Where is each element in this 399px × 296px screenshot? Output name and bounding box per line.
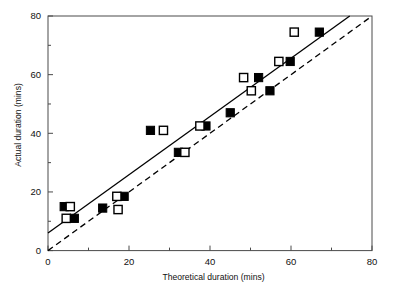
data-point-open [240,73,248,81]
data-point-open [181,148,189,156]
x-tick-label: 60 [286,256,297,267]
data-point-filled [286,57,294,65]
data-point-open [247,87,255,95]
data-point-open [114,205,122,213]
y-tick-label: 40 [30,128,41,139]
data-point-filled [146,126,154,134]
x-axis-label: Theoretical duration (mins) [0,272,399,282]
x-tick-label: 0 [45,256,50,267]
x-tick-label: 20 [124,256,135,267]
data-point-filled [99,204,107,212]
scatter-plot-figure: Actual duration (mins) Theoretical durat… [0,0,399,296]
identity-line [48,16,372,251]
data-point-filled [70,214,78,222]
data-point-filled [226,109,234,117]
data-point-open [196,122,204,130]
data-point-open [290,28,298,36]
data-point-open [159,126,167,134]
data-point-open [66,203,74,211]
y-tick-label: 80 [30,10,41,21]
plot-canvas: 020406080020406080 [0,0,399,296]
data-point-open [113,192,121,200]
data-point-filled [315,28,323,36]
y-tick-label: 20 [30,186,41,197]
x-axis-label-text: Theoretical duration (mins) [134,272,264,282]
y-axis-label: Actual duration (mins) [13,45,23,205]
y-tick-label: 0 [36,245,41,256]
data-point-filled [255,73,263,81]
data-point-filled [266,87,274,95]
x-tick-label: 40 [205,256,216,267]
data-point-open [62,214,70,222]
x-tick-label: 80 [367,256,378,267]
y-tick-label: 60 [30,69,41,80]
data-point-open [275,57,283,65]
